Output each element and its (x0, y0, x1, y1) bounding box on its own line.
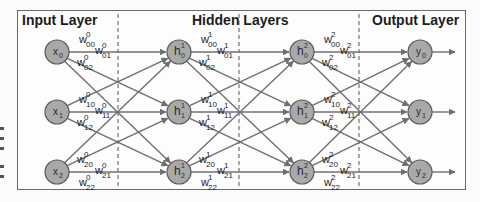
node-h2-2: h22 (290, 160, 314, 184)
weight-label: w212 (321, 113, 338, 132)
weight-label: w121 (216, 161, 233, 180)
node-y2: y2 (408, 160, 432, 184)
node-h0-1: h10 (167, 40, 191, 64)
weight-label: w222 (323, 173, 340, 192)
weight-label: w202 (321, 53, 338, 72)
weight-label: w120 (198, 150, 215, 169)
network-graph: w000w001w002w010w011w012w020w021w022w100… (0, 0, 480, 202)
weight-label: w100 (200, 30, 217, 49)
node-x2: x2 (45, 160, 69, 184)
weight-label: w122 (200, 173, 217, 192)
connections (65, 52, 455, 172)
neural-network-diagram: Input Layer Hidden Layers Output Layer w… (0, 0, 480, 202)
weight-label: w012 (76, 113, 93, 132)
node-x1: x1 (45, 100, 69, 124)
node-x0: x0 (45, 40, 69, 64)
weight-label: w101 (216, 41, 233, 60)
weight-label: w111 (216, 101, 233, 120)
weight-label: w010 (78, 90, 95, 109)
weight-label: w211 (339, 101, 356, 120)
weight-label: w221 (339, 161, 356, 180)
node-h0-2: h20 (290, 40, 314, 64)
weight-label: w201 (339, 41, 356, 60)
node-h1-2: h21 (290, 100, 314, 124)
weight-label: w220 (321, 150, 338, 169)
weight-label: w000 (78, 30, 95, 49)
weight-label: w110 (200, 90, 217, 109)
weight-label: w112 (198, 113, 215, 132)
weight-label: w020 (76, 150, 93, 169)
node-y1: y1 (408, 100, 432, 124)
node-h2-1: h12 (167, 160, 191, 184)
weight-label: w022 (78, 173, 95, 192)
weight-label: w002 (76, 53, 93, 72)
node-h1-1: h11 (167, 100, 191, 124)
weight-label: w200 (323, 30, 340, 49)
weight-label: w102 (198, 53, 215, 72)
weight-label: w021 (94, 161, 111, 180)
weight-label: w001 (94, 41, 111, 60)
node-y0: y0 (408, 40, 432, 64)
